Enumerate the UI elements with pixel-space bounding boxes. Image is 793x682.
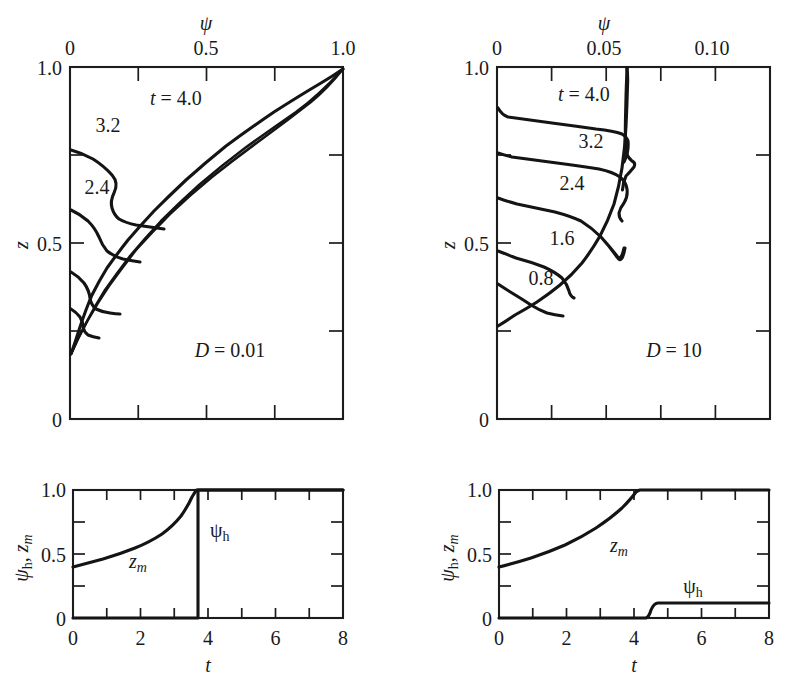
top-left-ytick-0: 0 — [52, 409, 62, 431]
top-left-xticks-top — [138, 67, 275, 81]
curve-t-4-0 — [498, 108, 628, 162]
panel-bottom-left: 1.0 0.5 0 ψh, zm 0 2 4 6 8 t — [0, 440, 400, 682]
curve-psih — [73, 490, 343, 618]
bottom-right-ytick-05: 0.5 — [467, 544, 492, 566]
top-left-xtick-05: 0.5 — [194, 37, 219, 59]
annotation-D-right: D = 10 — [645, 339, 702, 361]
label-zm: zm — [609, 534, 628, 559]
top-right-ytick-0: 0 — [479, 409, 489, 431]
top-right-yticks-left — [497, 155, 511, 331]
top-right-xticks-bottom — [552, 405, 716, 419]
bottom-right-yaxis-title: ψh, zm — [436, 534, 461, 581]
bottom-left-ytick-05: 0.5 — [41, 544, 66, 566]
bottom-left-ytick-0: 0 — [56, 608, 66, 630]
bottom-right-xtick-4: 4 — [629, 627, 639, 649]
label-psih: ψh — [683, 575, 703, 600]
bottom-right-xaxis-title: t — [631, 654, 637, 676]
bottom-right-curves — [499, 490, 769, 618]
bottom-right-xtick-0: 0 — [494, 627, 504, 649]
annotation-D-left: D = 0.01 — [194, 339, 266, 361]
top-left-yticks-left — [70, 155, 84, 331]
bottom-left-xtick-8: 8 — [338, 627, 348, 649]
top-right-ytick-10: 1.0 — [464, 57, 489, 79]
top-left-xtick-10: 1.0 — [331, 37, 356, 59]
figure-root: ψ 0 0.5 1.0 1.0 0.5 0 z — [0, 0, 793, 682]
top-left-xtick-0: 0 — [65, 37, 75, 59]
top-right-yticks-right — [756, 155, 770, 331]
label-t-1-6: 1.6 — [550, 227, 575, 249]
label-t-2-4: 2.4 — [560, 172, 585, 194]
label-t-3-2: 3.2 — [579, 130, 604, 152]
bottom-right-xtick-6: 6 — [697, 627, 707, 649]
top-left-ytick-05: 0.5 — [37, 233, 62, 255]
bottom-left-yticks-left — [73, 522, 85, 586]
label-t-0-8: 0.8 — [529, 267, 554, 289]
top-right-xtick-0: 0 — [492, 37, 502, 59]
top-right-yaxis-title: z — [437, 241, 459, 250]
label-t-eq-4-0: t = 4.0 — [558, 83, 610, 105]
bottom-left-xtick-2: 2 — [136, 627, 146, 649]
label-t-2-4: 2.4 — [85, 176, 110, 198]
top-left-xaxis-title: ψ — [200, 12, 213, 35]
label-psih: ψh — [210, 519, 230, 544]
bottom-left-xtick-0: 0 — [68, 627, 78, 649]
top-left-ytick-10: 1.0 — [37, 57, 62, 79]
top-right-xticks-top — [552, 67, 716, 81]
top-right-xaxis-title: ψ — [598, 12, 611, 35]
bottom-right-curve-labels: zm ψh — [609, 534, 703, 600]
top-left-curves — [71, 69, 343, 354]
label-zm: zm — [128, 550, 147, 575]
label-t-eq-4-0: t = 4.0 — [150, 87, 202, 109]
bottom-left-plot-frame — [73, 490, 343, 618]
bottom-left-curves — [73, 490, 343, 618]
bottom-left-xtick-6: 6 — [271, 627, 281, 649]
top-left-yaxis-title: z — [10, 241, 32, 250]
bottom-right-ytick-10: 1.0 — [467, 479, 492, 501]
bottom-right-xtick-8: 8 — [764, 627, 774, 649]
bottom-right-xtick-2: 2 — [562, 627, 572, 649]
bottom-left-curve-labels: zm ψh — [128, 519, 229, 575]
bottom-left-yaxis-title: ψh, zm — [10, 534, 35, 581]
top-right-curve-labels: t = 4.0 3.2 2.4 1.6 0.8 — [529, 83, 610, 289]
bottom-left-ytick-10: 1.0 — [41, 479, 66, 501]
bottom-left-yticks-right — [331, 522, 343, 586]
panel-top-right: ψ 0 0.05 0.10 1.0 0.5 0 z — [400, 0, 793, 440]
panel-top-left: ψ 0 0.5 1.0 1.0 0.5 0 z — [0, 0, 400, 440]
bottom-left-xtick-4: 4 — [203, 627, 213, 649]
bottom-left-xaxis-title: t — [205, 654, 211, 676]
bottom-right-ytick-0: 0 — [482, 608, 492, 630]
top-right-ytick-05: 0.5 — [464, 233, 489, 255]
top-right-xtick-005: 0.05 — [587, 37, 622, 59]
panel-bottom-right: 1.0 0.5 0 ψh, zm 0 2 4 6 8 t — [400, 440, 793, 682]
bottom-right-yticks-left — [499, 522, 511, 586]
top-left-yticks-right — [329, 155, 343, 331]
curve-zm — [73, 490, 343, 567]
bottom-right-yticks-right — [757, 522, 769, 586]
curve-zm — [499, 490, 769, 567]
label-t-3-2: 3.2 — [96, 114, 121, 136]
top-right-xtick-010: 0.10 — [695, 37, 730, 59]
top-right-curves — [498, 68, 635, 326]
top-left-xticks-bottom — [138, 405, 275, 419]
curve-envelope — [498, 68, 628, 326]
